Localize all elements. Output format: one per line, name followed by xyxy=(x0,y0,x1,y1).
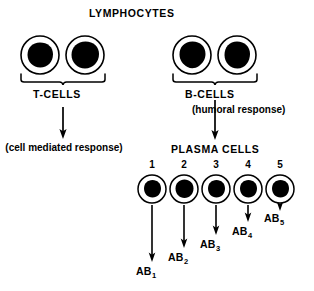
nucleus xyxy=(28,43,54,68)
plasma-cell-number-3: 3 xyxy=(208,159,224,170)
lymphocyte-cell-t1 xyxy=(21,36,59,74)
plasma-cells-row xyxy=(138,175,294,203)
nucleus xyxy=(225,42,251,69)
antibody-label-3-name: AB xyxy=(200,238,216,250)
antibody-label-2-subscript: 2 xyxy=(184,257,188,266)
antibody-label-3-subscript: 3 xyxy=(216,244,220,253)
annotation-cell-mediated-response: (cell mediated response) xyxy=(5,142,123,154)
label-t-cells: T-CELLS xyxy=(33,89,81,101)
label-b-cells: B-CELLS xyxy=(185,89,235,101)
nucleus xyxy=(240,180,257,198)
antibody-label-1: AB1 xyxy=(136,266,156,278)
b-cells-brace xyxy=(173,74,257,85)
antibody-label-5-subscript: 5 xyxy=(280,218,284,227)
antibody-label-4-subscript: 4 xyxy=(248,231,252,240)
antibody-label-2: AB2 xyxy=(168,252,188,264)
antibody-arrow-4 xyxy=(245,205,252,222)
antibody-label-4-name: AB xyxy=(232,225,248,237)
lymphocyte-cell-b2 xyxy=(218,36,256,74)
t-cells-to-response-arrow xyxy=(59,107,66,139)
nucleus xyxy=(272,180,289,198)
antibody-arrow-2 xyxy=(181,205,188,248)
antibody-label-1-subscript: 1 xyxy=(152,271,156,280)
antibody-label-5-name: AB xyxy=(264,212,280,224)
plasma-cell-number-4: 4 xyxy=(240,159,256,170)
antibody-arrow-1 xyxy=(149,205,156,262)
plasma-cell-number-5: 5 xyxy=(272,159,288,170)
antibody-label-5: AB5 xyxy=(264,213,284,225)
antibody-label-2-name: AB xyxy=(168,251,184,263)
annotation-humoral-response: (humoral response) xyxy=(192,104,285,115)
lymphocyte-cell-b1 xyxy=(173,36,211,74)
page-title: LYMPHOCYTES xyxy=(89,8,175,20)
plasma-cell-3 xyxy=(202,175,230,203)
label-plasma-cells: PLASMA CELLS xyxy=(171,144,259,156)
nucleus xyxy=(144,180,161,198)
plasma-cell-number-1: 1 xyxy=(144,159,160,170)
antibody-label-3: AB3 xyxy=(200,239,220,251)
lymphocyte-cell-t2 xyxy=(66,36,104,74)
nucleus xyxy=(208,180,225,198)
plasma-cell-4 xyxy=(234,175,262,203)
plasma-cell-1 xyxy=(138,175,166,203)
antibody-label-4: AB4 xyxy=(232,226,252,238)
t-cells-brace xyxy=(21,74,105,85)
antibody-arrow-3 xyxy=(213,205,220,235)
plasma-cell-5 xyxy=(266,175,294,203)
plasma-cell-2 xyxy=(170,175,198,203)
plasma-cell-number-2: 2 xyxy=(176,159,192,170)
immunology-diagram: LYMPHOCYTES T-CELLS B-CELLS (humoral res… xyxy=(0,0,314,291)
antibody-label-1-name: AB xyxy=(136,265,152,277)
nucleus xyxy=(176,180,194,199)
